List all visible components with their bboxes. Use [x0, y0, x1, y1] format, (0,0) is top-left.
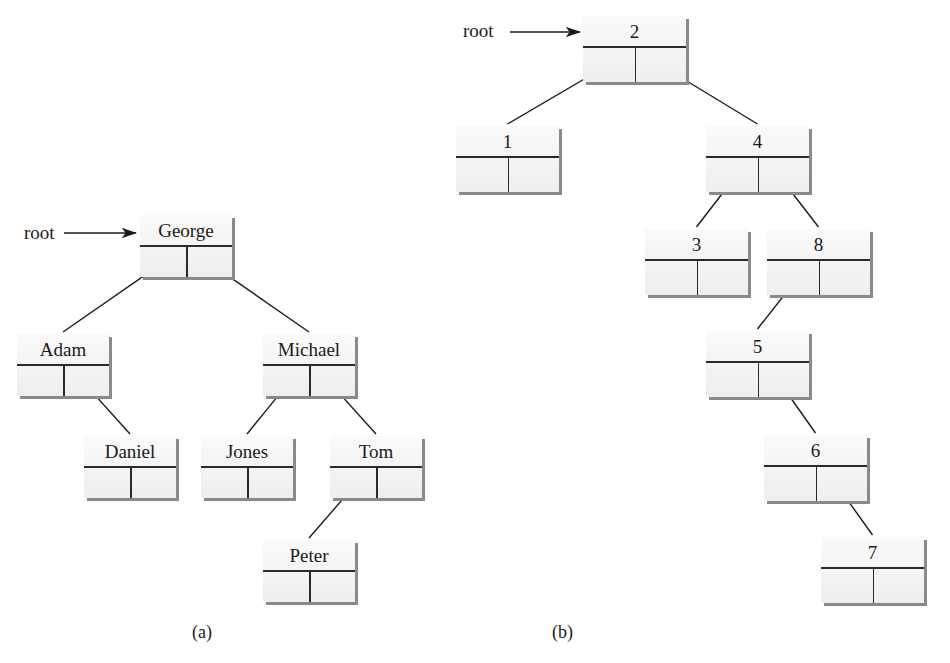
node-value: Daniel — [84, 436, 176, 466]
left-child-pointer — [456, 157, 508, 192]
right-child-pointer — [816, 466, 868, 501]
node-value: 4 — [706, 126, 809, 156]
right-child-pointer — [309, 365, 355, 396]
right-child-pointer — [758, 362, 810, 397]
tree-node-n4: 4 — [706, 126, 809, 192]
node-value: Tom — [330, 436, 422, 466]
node-value: 6 — [764, 435, 867, 465]
left-child-pointer — [140, 246, 186, 277]
right-child-pointer — [63, 365, 109, 396]
left-child-pointer — [706, 157, 758, 192]
left-child-pointer — [17, 365, 63, 396]
left-child-pointer — [645, 260, 697, 295]
right-child-pointer — [508, 157, 560, 192]
right-child-pointer — [130, 467, 176, 498]
right-child-pointer — [186, 246, 232, 277]
tree-node-n7: 7 — [821, 537, 924, 603]
right-child-pointer — [873, 568, 925, 603]
right-child-pointer — [758, 157, 810, 192]
node-value: Michael — [263, 334, 355, 364]
tree-node-adam: Adam — [17, 334, 109, 396]
left-child-pointer — [84, 467, 130, 498]
left-child-pointer — [263, 571, 309, 602]
tree-node-n3: 3 — [645, 229, 748, 295]
tree-node-george: George — [140, 215, 232, 277]
left-child-pointer — [201, 467, 247, 498]
tree-node-jones: Jones — [201, 436, 293, 498]
right-child-pointer — [819, 260, 871, 295]
tree-node-peter: Peter — [263, 540, 355, 602]
left-child-pointer — [767, 260, 819, 295]
left-child-pointer — [821, 568, 873, 603]
node-value: 7 — [821, 537, 924, 567]
right-child-pointer — [247, 467, 293, 498]
tree-node-michael: Michael — [263, 334, 355, 396]
right-child-pointer — [697, 260, 749, 295]
left-child-pointer — [706, 362, 758, 397]
caption-a: (a) — [192, 622, 212, 643]
left-child-pointer — [764, 466, 816, 501]
node-value: 1 — [456, 126, 559, 156]
tree-node-n2: 2 — [583, 16, 686, 82]
left-child-pointer — [330, 467, 376, 498]
node-value: 3 — [645, 229, 748, 259]
tree-node-daniel: Daniel — [84, 436, 176, 498]
left-child-pointer — [583, 47, 635, 82]
node-value: 8 — [767, 229, 870, 259]
tree-node-n6: 6 — [764, 435, 867, 501]
caption-b: (b) — [552, 622, 573, 643]
tree-node-n8: 8 — [767, 229, 870, 295]
node-value: 5 — [706, 331, 809, 361]
node-value: Jones — [201, 436, 293, 466]
root-label-b: root — [463, 20, 494, 42]
root-label-a: root — [24, 222, 55, 244]
node-value: Adam — [17, 334, 109, 364]
left-child-pointer — [263, 365, 309, 396]
tree-node-tom: Tom — [330, 436, 422, 498]
tree-node-n5: 5 — [706, 331, 809, 397]
tree-node-n1: 1 — [456, 126, 559, 192]
node-value: Peter — [263, 540, 355, 570]
node-value: George — [140, 215, 232, 245]
right-child-pointer — [376, 467, 422, 498]
node-value: 2 — [583, 16, 686, 46]
right-child-pointer — [309, 571, 355, 602]
right-child-pointer — [635, 47, 687, 82]
